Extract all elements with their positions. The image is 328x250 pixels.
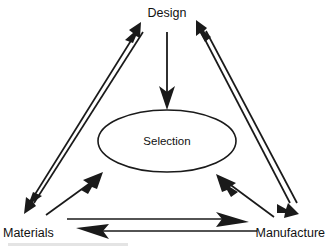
diagram-canvas: Selection Design Materials Manufacture (0, 0, 328, 250)
edge-manufacture-to-materials (76, 224, 257, 239)
edge-materials-to-selection (46, 172, 103, 215)
arrowhead-down-to-materials (24, 192, 42, 214)
arrowhead-materials-to-selection (81, 172, 103, 194)
materials-label: Materials (3, 226, 54, 240)
arrowhead-up-to-design-right (196, 20, 211, 42)
edge-manufacture-to-selection (216, 174, 274, 217)
arrowhead-down-to-manufacture (277, 203, 299, 218)
edge-line-materials-to-selection (46, 181, 93, 215)
design-label: Design (148, 6, 187, 20)
materials-selection-diagram: Selection Design Materials Manufacture (0, 0, 328, 250)
scan-artifact (8, 243, 128, 246)
edge-design-to-selection (159, 32, 175, 110)
edge-line-manufacture-to-design (200, 30, 290, 203)
edge-materials-to-manufacture (67, 212, 249, 227)
manufacture-label: Manufacture (256, 226, 326, 240)
arrowhead-manufacture-to-selection (216, 174, 238, 197)
selection-label: Selection (143, 135, 190, 147)
edge-line-manufacture-to-selection (228, 183, 274, 217)
